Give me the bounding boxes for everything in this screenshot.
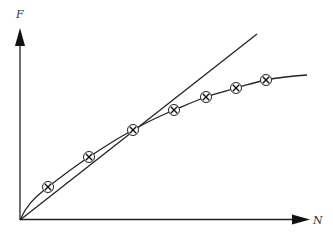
- circled-x-marker-icon: [43, 182, 54, 193]
- circled-x-marker-icon: [201, 92, 212, 103]
- y-axis: [15, 28, 25, 220]
- circled-x-marker-icon: [231, 83, 242, 94]
- fitted-curve: [20, 75, 307, 220]
- x-axis-arrow-icon: [292, 215, 310, 225]
- circled-x-marker-icon: [169, 105, 180, 116]
- circled-x-marker-icon: [261, 75, 272, 86]
- y-axis-arrow-icon: [15, 28, 25, 46]
- force-vs-n-diagram: F N: [0, 0, 333, 239]
- x-axis-label: N: [312, 214, 323, 227]
- y-axis-label: F: [15, 8, 24, 21]
- circled-x-marker-icon: [128, 125, 139, 136]
- circled-x-marker-icon: [84, 152, 95, 163]
- x-axis: [20, 215, 310, 225]
